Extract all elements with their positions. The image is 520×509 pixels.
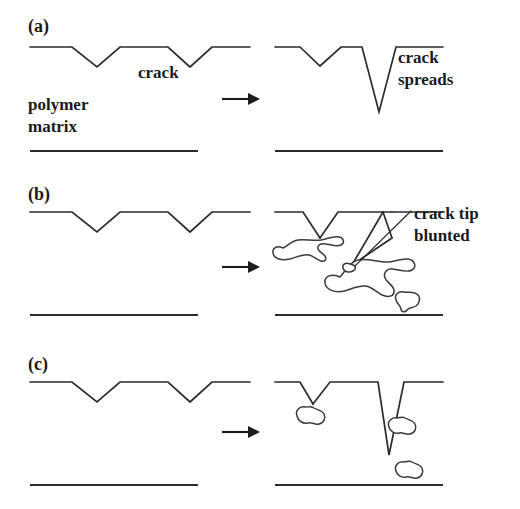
panel-c-right-surface-seg2	[313, 382, 443, 455]
panel-b-crack-tip-line2: blunted	[414, 226, 470, 245]
panel-c-right-surface-seg1	[275, 382, 313, 404]
panel-b-rubber-particle-2	[325, 259, 415, 297]
panel-c-rubber-particle-3	[395, 461, 422, 478]
panel-b-transition-arrow	[222, 261, 260, 273]
crack-propagation-diagram: (a) crack polymer matrix crack spreads (…	[0, 0, 520, 509]
panel-b-rubber-particle-2-lobe	[343, 263, 356, 272]
panel-c-transition-arrow	[222, 426, 260, 438]
panel-b-rubber-particle-3	[395, 292, 419, 312]
panel-c-left-surface-profile	[30, 382, 250, 402]
panel-a-crack-label: crack	[138, 63, 179, 82]
panel-a-matrix-label: matrix	[28, 117, 78, 136]
panel-b-label: (b)	[28, 184, 50, 205]
panel-b-right-surface-seg1	[275, 212, 320, 238]
panel-a: (a) crack polymer matrix crack spreads	[28, 16, 454, 151]
panel-a-transition-arrow	[222, 93, 260, 105]
panel-b-rubber-particle-1	[273, 237, 344, 261]
panel-c-rubber-particle-2	[388, 417, 415, 434]
panel-c: (c)	[28, 354, 443, 485]
panel-b-left-surface-profile	[30, 212, 250, 232]
panel-b-crack-tip-leader-line	[355, 211, 411, 266]
panel-a-label: (a)	[28, 16, 49, 37]
panel-b-crack-tip-line1: crack tip	[414, 204, 479, 223]
panel-c-rubber-particle-1	[296, 407, 324, 424]
panel-a-crack-spreads-line2: spreads	[398, 70, 454, 89]
panel-b-right-crack-right-branch	[352, 212, 383, 265]
panel-a-polymer-label: polymer	[28, 95, 89, 114]
panel-a-crack-spreads-line1: crack	[398, 48, 439, 67]
panel-b: (b) crack tip	[28, 184, 479, 315]
panel-c-label: (c)	[28, 354, 48, 375]
figure-root: (a) crack polymer matrix crack spreads (…	[0, 0, 520, 509]
